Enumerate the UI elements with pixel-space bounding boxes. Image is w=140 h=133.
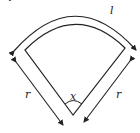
angle-label: x: [70, 90, 77, 103]
radius-left-label: r: [25, 88, 31, 101]
arc-length-arrow: [14, 16, 136, 51]
radius-right-label: r: [116, 88, 122, 101]
left-radius-arrow: [16, 62, 63, 125]
arc-length-label: l: [110, 4, 114, 17]
sector-diagram: c) Sector l r r x: [0, 0, 140, 133]
diagram-title: c) Sector: [2, 0, 54, 1]
